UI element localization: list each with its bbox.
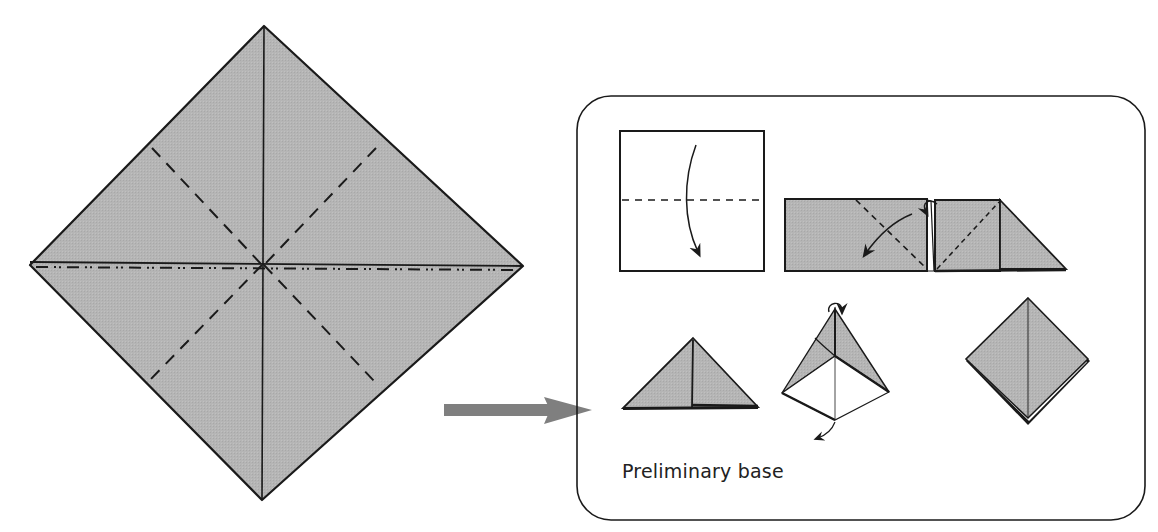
caption-preliminary-base: Preliminary base xyxy=(622,460,784,482)
step-6-diamond xyxy=(966,298,1090,425)
step-1-square xyxy=(620,131,764,271)
right-arrow-icon xyxy=(444,397,592,424)
open-arrow-icon xyxy=(818,422,835,438)
step-5-pyramid xyxy=(782,303,889,438)
step-3-shape xyxy=(925,200,1066,271)
main-crease-pattern xyxy=(30,26,523,500)
step-2-rectangle xyxy=(785,199,934,271)
origami-diagram xyxy=(0,0,1158,532)
step-4-triangle xyxy=(623,338,758,409)
